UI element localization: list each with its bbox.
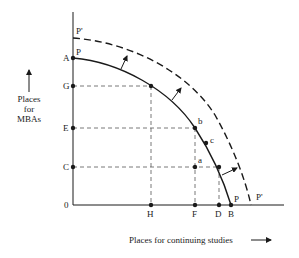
ppf-diagram: P' P P P' A G E C 0 H F D B b c a Places… [0,0,299,258]
label-a-point: a [198,155,202,165]
label-c-point: c [210,135,214,145]
shift-arrow-icon [172,88,181,100]
label-g: G [63,81,70,91]
label-f: F [192,209,197,219]
original-frontier-curve [73,58,231,205]
label-e: E [63,123,69,133]
label-p-prime-top: P' [76,26,83,36]
label-b-axis: B [228,209,234,219]
y-axis-title-line2: for [24,104,35,114]
label-p-prime-bottom: P' [256,192,263,202]
label-p-top: P [76,47,81,57]
curve-points [149,84,221,169]
label-b-point: b [198,116,203,126]
shift-arrow-icon [121,56,127,69]
label-origin: 0 [64,200,69,210]
y-axis-title-line3: MBAs [17,114,42,124]
label-c: C [63,162,69,172]
y-axis-title-line1: Places [18,94,41,104]
shift-arrow-icon [222,168,237,175]
label-h: H [147,209,154,219]
label-a-axis: A [63,53,70,63]
guide-lines [73,86,219,205]
label-d: D [215,209,222,219]
x-axis-title: Places for continuing studies [129,235,233,245]
label-p-bottom: P [234,194,239,204]
